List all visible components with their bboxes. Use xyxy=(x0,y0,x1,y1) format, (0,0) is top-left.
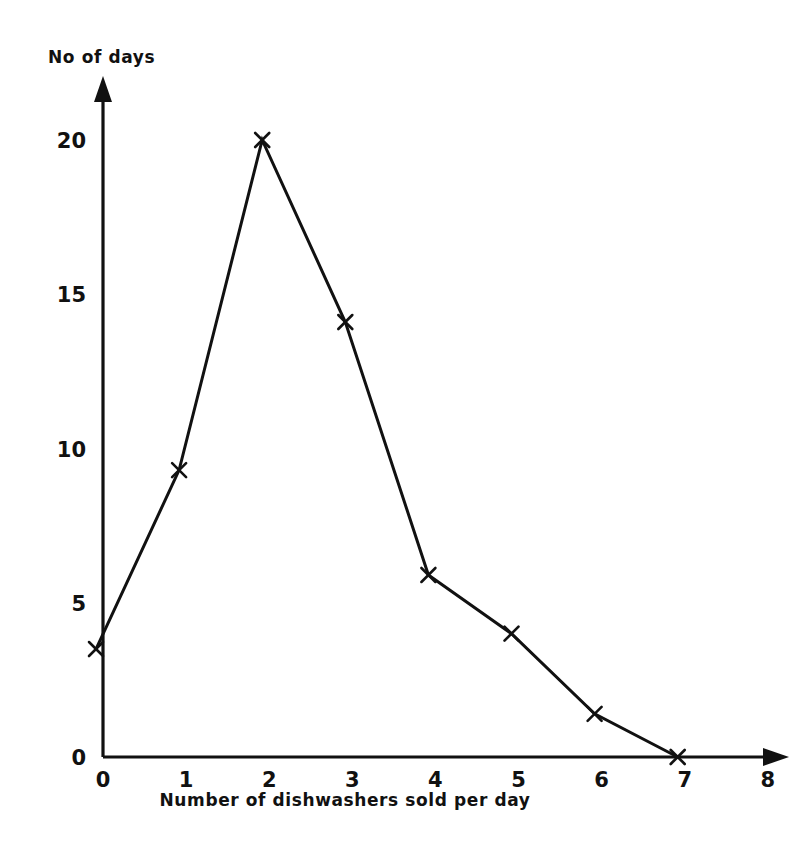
x-tick-label: 1 xyxy=(179,768,194,792)
chart-page: No of days Number of dishwashers sold pe… xyxy=(0,0,812,858)
y-tick-label: 20 xyxy=(57,129,86,153)
y-tick-label: 0 xyxy=(71,746,86,770)
data-point-marker xyxy=(338,315,352,329)
x-tick-label: 2 xyxy=(262,768,277,792)
y-tick-label: 10 xyxy=(57,438,86,462)
x-axis-title: Number of dishwashers sold per day xyxy=(160,790,531,810)
y-axis-arrow-icon xyxy=(94,76,112,102)
x-tick-label: 0 xyxy=(96,768,111,792)
y-tick-label: 15 xyxy=(57,283,86,307)
x-tick-label: 8 xyxy=(760,768,775,792)
frequency-polygon-chart: No of days Number of dishwashers sold pe… xyxy=(0,0,812,858)
x-tick-label: 6 xyxy=(594,768,609,792)
y-tick-label-group: 05101520 xyxy=(57,129,86,770)
data-point-marker xyxy=(89,642,103,656)
x-tick-label-group: 012345678 xyxy=(96,768,775,792)
data-point-marker xyxy=(505,627,519,641)
x-tick-label: 4 xyxy=(428,768,443,792)
series-line-no-of-days xyxy=(96,140,678,757)
x-tick-label: 5 xyxy=(511,768,526,792)
y-axis-title: No of days xyxy=(48,47,155,67)
x-tick-label: 3 xyxy=(345,768,360,792)
y-tick-label: 5 xyxy=(71,592,86,616)
x-axis-arrow-icon xyxy=(763,748,789,766)
data-point-marker xyxy=(588,707,602,721)
x-tick-label: 7 xyxy=(677,768,692,792)
data-point-marker xyxy=(421,568,435,582)
